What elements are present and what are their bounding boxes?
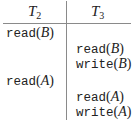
data-item: A [41, 73, 50, 88]
header-divider [3, 23, 131, 24]
header-t2-subscript: 2 [36, 10, 41, 21]
schedule-step: read(A) [6, 73, 54, 90]
header-t2: T2 [28, 3, 41, 19]
operation: write [76, 106, 114, 120]
data-item: B [111, 41, 120, 56]
operation: write [76, 58, 114, 72]
data-item: A [118, 104, 127, 119]
column-divider [66, 1, 67, 120]
header-t3: T3 [91, 3, 104, 19]
schedule-step: write(B) [76, 56, 131, 73]
operation: read [6, 27, 36, 41]
operation: read [76, 43, 106, 57]
operation: read [76, 91, 106, 105]
data-item: B [118, 56, 127, 71]
schedule-step: write(A) [76, 104, 131, 121]
data-item: A [111, 89, 120, 104]
header-t3-subscript: 3 [99, 10, 104, 21]
operation: read [6, 75, 36, 89]
schedule-step: read(B) [6, 25, 54, 42]
data-item: B [41, 25, 50, 40]
